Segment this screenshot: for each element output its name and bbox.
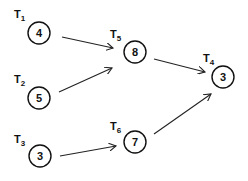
node-t3: 3T3 bbox=[14, 133, 51, 167]
node-t5: 8T5 bbox=[110, 28, 146, 63]
node-value: 3 bbox=[37, 150, 43, 162]
node-t1: 4T1 bbox=[14, 8, 50, 44]
edge-arrow-t2-to-t5 bbox=[59, 68, 112, 92]
task-graph-diagram: 4T15T23T33T48T57T6 bbox=[0, 0, 248, 181]
node-value: 7 bbox=[132, 136, 138, 148]
node-value: 8 bbox=[132, 46, 138, 58]
node-label: T5 bbox=[110, 28, 122, 43]
node-label: T6 bbox=[110, 120, 122, 135]
edge-arrow-t1-to-t5 bbox=[62, 37, 113, 48]
edge-arrow-t3-to-t6 bbox=[60, 146, 116, 156]
nodes-group: 4T15T23T33T48T57T6 bbox=[14, 8, 234, 167]
node-label: T2 bbox=[14, 73, 26, 88]
edge-arrow-t6-to-t4 bbox=[154, 94, 211, 134]
node-label: T1 bbox=[14, 8, 26, 23]
node-value: 3 bbox=[220, 71, 226, 83]
node-t2: 5T2 bbox=[14, 73, 50, 109]
node-t6: 7T6 bbox=[110, 120, 146, 153]
node-value: 5 bbox=[36, 92, 42, 104]
node-label: T3 bbox=[14, 133, 26, 148]
node-value: 4 bbox=[36, 27, 43, 39]
edge-arrow-t5-to-t4 bbox=[154, 59, 205, 72]
graph-svg: 4T15T23T33T48T57T6 bbox=[0, 0, 248, 181]
node-label: T4 bbox=[203, 52, 215, 67]
node-t4: 3T4 bbox=[203, 52, 234, 88]
